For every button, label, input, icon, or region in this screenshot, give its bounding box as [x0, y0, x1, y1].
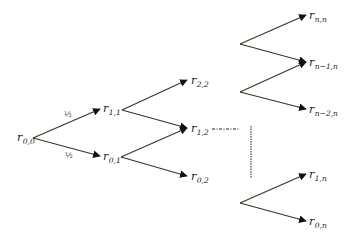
tree-edge-arrow	[240, 15, 306, 44]
probability-label: ½	[64, 110, 72, 119]
node-label-r0n: r0,n	[309, 215, 327, 230]
node-label-rn1n: rn−1,n	[309, 56, 338, 71]
tree-edge-arrow	[121, 128, 187, 157]
node-label-rnn: rn,n	[309, 9, 327, 24]
binomial-tree-diagram: ½½ r0,0r1,1r0,1r2,2r1,2r0,2rn,nrn−1,nrn−…	[0, 0, 349, 240]
node-label-r00: r0,0	[17, 131, 35, 146]
tree-edge-arrow	[240, 92, 306, 109]
node-label-r12: r1,2	[191, 122, 209, 137]
node-label-r22: r2,2	[191, 74, 209, 89]
tree-edge-arrow	[240, 174, 306, 203]
tree-edges	[33, 15, 306, 221]
rate-nodes: r0,0r1,1r0,1r2,2r1,2r0,2rn,nrn−1,nrn−2,n…	[17, 9, 338, 230]
tree-edge-arrow	[240, 62, 306, 92]
continuation-ellipsis	[212, 126, 251, 178]
probability-labels: ½½	[64, 110, 73, 160]
tree-edge-arrow	[121, 157, 187, 176]
tree-edge-arrow	[122, 110, 187, 128]
probability-label: ½	[65, 151, 73, 160]
node-label-r01: r0,1	[103, 150, 121, 165]
tree-edge-arrow	[122, 80, 187, 110]
node-label-rn2n: rn−2,n	[309, 103, 338, 118]
node-label-r02: r0,2	[191, 170, 209, 185]
node-label-r11: r1,1	[103, 102, 121, 117]
node-label-r1n: r1,n	[309, 168, 327, 183]
tree-edge-arrow	[240, 203, 306, 221]
tree-edge-arrow	[240, 44, 306, 62]
